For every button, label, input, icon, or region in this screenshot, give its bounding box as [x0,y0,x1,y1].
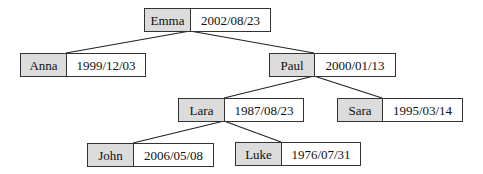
edge-emma-anna [66,31,190,53]
tree-node-john: John2006/05/08 [88,144,214,167]
node-name-label: Luke [245,147,272,162]
tree-node-luke: Luke1976/07/31 [236,143,361,166]
edge-lara-luke [224,121,281,142]
node-date-label: 1995/03/14 [393,103,453,118]
edge-paul-lara [224,76,314,98]
tree-node-emma: Emma2002/08/23 [145,9,271,32]
edge-paul-sara [314,76,382,98]
node-name-label: Paul [280,58,304,73]
node-name-label: Lara [190,103,214,118]
node-date-label: 1987/08/23 [234,103,293,118]
tree-node-lara: Lara1987/08/23 [179,99,304,122]
tree-node-paul: Paul2000/01/13 [270,54,396,77]
tree-node-sara: Sara1995/03/14 [338,99,463,122]
family-tree-diagram: Emma2002/08/23Anna1999/12/03Paul2000/01/… [0,0,483,174]
node-name-label: John [98,148,123,163]
node-name-label: Sara [348,103,371,118]
edge-emma-paul [190,31,314,53]
edge-lara-john [133,121,224,143]
node-name-label: Anna [29,58,57,73]
node-name-label: Emma [151,13,185,28]
node-date-label: 2002/08/23 [201,13,260,28]
tree-node-anna: Anna1999/12/03 [21,54,146,77]
node-date-label: 1999/12/03 [76,58,135,73]
node-date-label: 2006/05/08 [144,148,203,163]
node-date-label: 1976/07/31 [291,147,350,162]
node-date-label: 2000/01/13 [325,58,384,73]
